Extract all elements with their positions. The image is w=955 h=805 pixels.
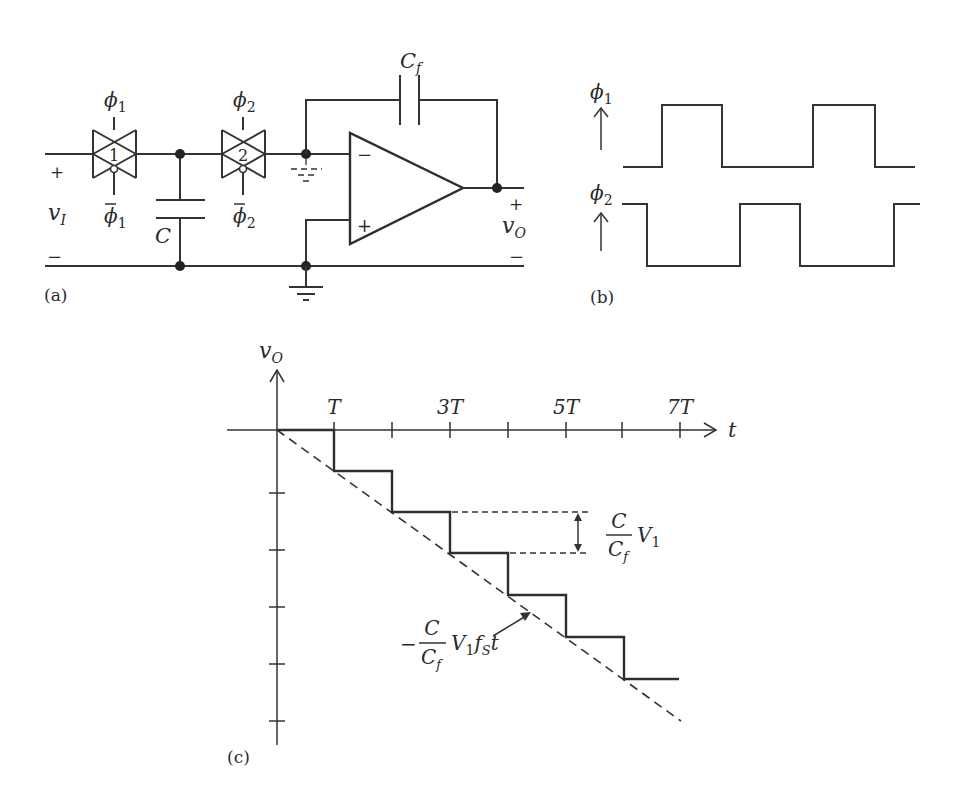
step-size-dimension [392, 512, 588, 553]
svg-text:Cf: Cf [421, 645, 443, 672]
panel-c-label: (c) [227, 747, 250, 767]
switch-1-number: 1 [109, 146, 119, 165]
switch-2-gate-phi2: ϕ2 [233, 88, 256, 115]
panel-b-label: (b) [590, 287, 614, 307]
capacitor-c-icon [156, 154, 205, 266]
switch-1-gate-phi1: ϕ1 [104, 88, 127, 115]
tick-label-7T: 7T [667, 395, 695, 419]
switch-2-number: 2 [238, 146, 248, 165]
tick-label-5T: 5T [553, 395, 581, 419]
feedback-capacitor-label: Cf [400, 49, 424, 76]
opamp-noninverting-sign: + [357, 215, 372, 236]
switch-2-gate-phi2-bar: ϕ2 [233, 204, 256, 231]
input-minus: − [47, 246, 62, 267]
ramp-equation-label: − C Cf V1fSt [400, 616, 500, 672]
virtual-ground-icon [291, 159, 322, 181]
panel-a-label: (a) [44, 285, 67, 305]
ground-icon [289, 266, 323, 300]
input-plus: + [50, 162, 64, 182]
node-c-bottom [175, 261, 185, 271]
capacitor-c-label: C [155, 224, 171, 248]
svg-text:C: C [611, 509, 626, 533]
opamp-inverting-sign: − [357, 144, 372, 165]
y-axis [269, 370, 285, 745]
x-axis-label: t [728, 418, 737, 442]
node-output [492, 183, 502, 193]
svg-text:V1: V1 [637, 523, 660, 550]
y-axis-label: vO [259, 338, 283, 366]
phi1-label: ϕ1 [590, 80, 613, 107]
step-size-label: C Cf V1 [606, 509, 660, 564]
opamp-icon [306, 133, 524, 266]
output-vo-label: vO [502, 213, 526, 241]
svg-text:V1fSt: V1fSt [451, 631, 500, 658]
phi2-arrow-icon [594, 213, 608, 251]
output-minus: − [509, 246, 524, 267]
phi2-waveform [622, 204, 920, 266]
input-vi-label: vI [48, 200, 66, 228]
svg-text:Cf: Cf [608, 537, 630, 564]
node-c-top [175, 149, 185, 159]
svg-text:−: − [400, 632, 417, 656]
output-plus: + [509, 194, 523, 214]
phi2-label: ϕ2 [590, 181, 613, 208]
svg-text:C: C [424, 616, 439, 640]
phi1-arrow-icon [594, 108, 608, 150]
panel-a-circuit: 1 ϕ1 ϕ1 2 ϕ2 ϕ2 C + [44, 49, 526, 305]
tick-label-T: T [327, 395, 342, 419]
ideal-ramp-line [277, 430, 681, 721]
switch-1-gate-phi1-bar: ϕ1 [104, 204, 127, 231]
switched-capacitor-integrator-figure: 1 ϕ1 ϕ1 2 ϕ2 ϕ2 C + [0, 0, 955, 805]
panel-b-clock-waveforms: ϕ1 ϕ2 (b) [590, 80, 920, 307]
phi1-waveform [623, 105, 915, 167]
tick-label-3T: 3T [437, 395, 465, 419]
panel-c-output-plot: vO t T 3T 5T 7T C [227, 338, 737, 767]
